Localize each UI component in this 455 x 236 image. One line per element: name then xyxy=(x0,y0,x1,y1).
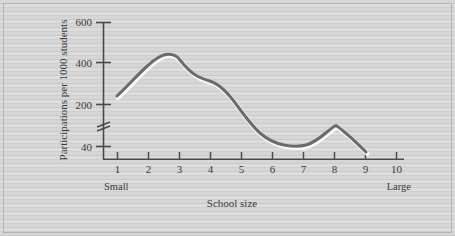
y-tick-label-400: 400 xyxy=(76,57,93,69)
x-tick-label-10: 10 xyxy=(391,163,403,175)
x-tick-label-3: 3 xyxy=(177,163,183,175)
line-chart-plot: 600 400 200 40 1 2 3 4 5 6 7 8 9 10 Smal… xyxy=(0,0,455,236)
x-tick-label-4: 4 xyxy=(208,163,214,175)
y-axis-title: Participations per 1000 students xyxy=(57,20,69,161)
x-axis-title: School size xyxy=(207,197,258,209)
data-line xyxy=(117,54,366,152)
x-axis-low-end-label: Small xyxy=(104,181,129,192)
data-line-highlight xyxy=(118,56,367,154)
x-tick-label-2: 2 xyxy=(146,163,152,175)
x-tick-label-9: 9 xyxy=(363,163,369,175)
y-tick-label-40: 40 xyxy=(81,141,93,153)
x-axis-high-end-label: Large xyxy=(387,181,412,192)
x-tick-label-7: 7 xyxy=(301,163,307,175)
x-tick-label-1: 1 xyxy=(115,163,121,175)
x-tick-label-8: 8 xyxy=(332,163,338,175)
x-tick-label-5: 5 xyxy=(239,163,245,175)
y-tick-label-200: 200 xyxy=(76,99,93,111)
y-tick-label-600: 600 xyxy=(76,16,93,28)
x-tick-label-6: 6 xyxy=(270,163,276,175)
chart-figure: 600 400 200 40 1 2 3 4 5 6 7 8 9 10 Smal… xyxy=(0,0,455,236)
x-axis-ticks xyxy=(118,152,397,159)
